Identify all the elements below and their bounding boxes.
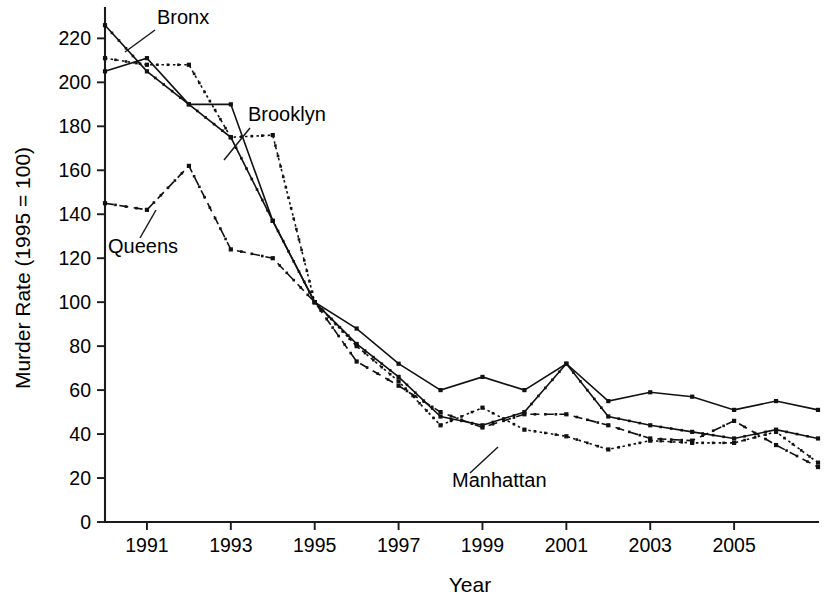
marker-bronx — [606, 414, 610, 418]
marker-mid-bronx — [139, 62, 142, 65]
marker-mid-manhattan — [308, 280, 311, 283]
marker-brooklyn — [187, 102, 191, 106]
marker-queens — [564, 412, 568, 416]
marker-mid-manhattan — [364, 352, 367, 355]
y-tick-label: 0 — [80, 511, 91, 533]
marker-mid-queens — [209, 206, 212, 209]
marker-bronx — [816, 436, 820, 440]
marker-mid-bronx — [204, 116, 207, 119]
marker-brooklyn — [229, 102, 233, 106]
marker-mid-queens — [174, 179, 177, 182]
marker-mid-manhattan — [114, 59, 117, 62]
marker-mid-queens — [325, 318, 328, 321]
manhattan-label: Manhattan — [452, 469, 547, 491]
x-axis-tick-labels: 19911993199519971999200120032005 — [125, 534, 756, 556]
bronx-label: Bronx — [157, 6, 209, 28]
marker-brooklyn — [522, 388, 526, 392]
marker-mid-queens — [153, 201, 156, 204]
marker-manhattan — [103, 56, 107, 60]
x-tick-label: 2005 — [712, 534, 756, 556]
marker-bronx — [648, 423, 652, 427]
marker-mid-manhattan — [135, 62, 138, 65]
marker-manhattan — [480, 406, 484, 410]
marker-queens — [396, 384, 400, 388]
leader-bronx — [125, 30, 155, 52]
marker-mid-queens — [743, 426, 746, 429]
marker-mid-bronx — [125, 47, 128, 50]
marker-mid-manhattan — [277, 155, 280, 158]
marker-mid-manhattan — [287, 196, 290, 199]
marker-mid-manhattan — [800, 449, 803, 452]
y-tick-label: 180 — [58, 115, 91, 137]
marker-mid-bronx — [308, 291, 311, 294]
marker-mid-manhattan — [712, 442, 715, 445]
marker-mid-manhattan — [261, 134, 264, 137]
marker-queens — [606, 423, 610, 427]
x-tick-label: 1995 — [293, 534, 337, 556]
chart-plot-area: 020406080100120140160180200220 199119931… — [0, 0, 832, 602]
marker-mid-bronx — [806, 435, 809, 438]
marker-mid-queens — [471, 422, 474, 425]
marker-mid-queens — [250, 253, 253, 256]
marker-mid-queens — [576, 416, 579, 419]
marker-mid-manhattan — [295, 228, 298, 231]
marker-mid-manhattan — [209, 100, 212, 103]
marker-mid-queens — [261, 255, 264, 258]
marker-manhattan — [438, 423, 442, 427]
marker-mid-queens — [366, 366, 369, 369]
marker-queens — [732, 419, 736, 423]
marker-mid-bronx — [298, 270, 301, 273]
marker-queens — [648, 436, 652, 440]
marker-manhattan — [732, 441, 736, 445]
marker-manhattan — [271, 133, 275, 137]
marker-mid-queens — [285, 272, 288, 275]
leader-brooklyn — [224, 128, 250, 160]
murder-rate-chart: 020406080100120140160180200220 199119931… — [0, 0, 832, 602]
y-tick-label: 120 — [58, 247, 91, 269]
marker-mid-queens — [638, 434, 641, 437]
marker-mid-manhattan — [555, 433, 558, 436]
marker-mid-queens — [460, 418, 463, 421]
marker-mid-bronx — [282, 240, 285, 243]
marker-brooklyn — [774, 399, 778, 403]
marker-bronx — [396, 375, 400, 379]
marker-brooklyn — [648, 390, 652, 394]
y-tick-label: 100 — [58, 291, 91, 313]
marker-mid-manhattan — [389, 373, 392, 376]
marker-mid-manhattan — [576, 438, 579, 441]
marker-mid-queens — [337, 335, 340, 338]
axis-frame — [105, 8, 818, 522]
marker-brooklyn — [396, 362, 400, 366]
marker-mid-manhattan — [306, 270, 309, 273]
marker-manhattan — [355, 344, 359, 348]
marker-mid-manhattan — [327, 316, 330, 319]
marker-mid-manhattan — [617, 446, 620, 449]
marker-mid-bronx — [256, 188, 259, 191]
marker-queens — [313, 300, 317, 304]
marker-mid-bronx — [179, 96, 182, 99]
marker-mid-queens — [193, 175, 196, 178]
marker-mid-manhattan — [290, 207, 293, 210]
marker-mid-queens — [754, 432, 757, 435]
x-tick-label: 1991 — [125, 534, 168, 556]
marker-mid-manhattan — [125, 60, 128, 63]
marker-mid-manhattan — [285, 186, 288, 189]
marker-mid-bronx — [659, 426, 662, 429]
marker-mid-queens — [349, 352, 352, 355]
marker-mid-manhattan — [167, 63, 170, 66]
marker-mid-queens — [135, 207, 138, 210]
marker-mid-manhattan — [404, 387, 407, 390]
marker-mid-bronx — [347, 334, 350, 337]
marker-queens — [355, 359, 359, 363]
marker-mid-bronx — [261, 199, 264, 202]
marker-mid-manhattan — [292, 217, 295, 220]
marker-brooklyn — [438, 388, 442, 392]
marker-brooklyn — [145, 56, 149, 60]
marker-mid-bronx — [364, 349, 367, 352]
marker-mid-manhattan — [303, 259, 306, 262]
marker-mid-bronx — [250, 178, 253, 181]
marker-mid-bronx — [551, 379, 554, 382]
marker-mid-bronx — [572, 371, 575, 374]
marker-mid-queens — [680, 439, 683, 442]
marker-mid-bronx — [537, 395, 540, 398]
